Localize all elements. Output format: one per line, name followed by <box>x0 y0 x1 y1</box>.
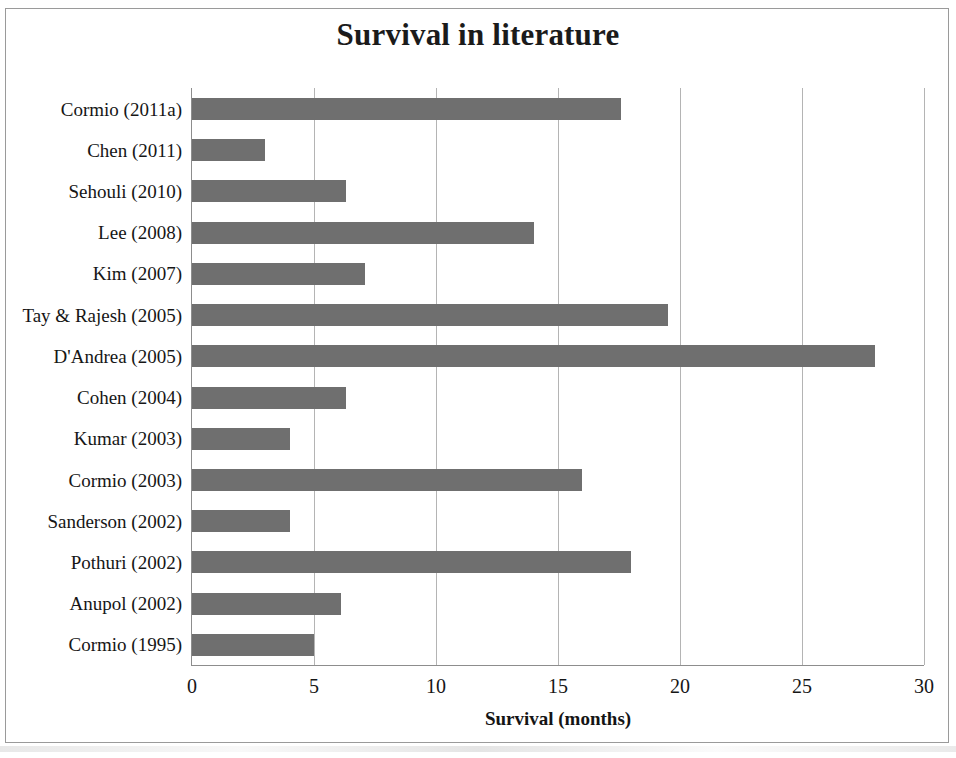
plot-area <box>192 88 924 665</box>
bar-row <box>192 88 924 129</box>
y-axis-label: Cormio (2011a) <box>2 100 182 119</box>
bar <box>192 98 621 120</box>
bar-row <box>192 335 924 376</box>
bar <box>192 551 631 573</box>
y-axis-label: Cormio (2003) <box>2 471 182 490</box>
bar <box>192 387 346 409</box>
y-axis-label: Tay & Rajesh (2005) <box>2 306 182 325</box>
bar <box>192 510 290 532</box>
bar-row <box>192 170 924 211</box>
y-axis-category-labels: Cormio (2011a)Chen (2011)Sehouli (2010)L… <box>0 88 182 665</box>
x-axis-title: Survival (months) <box>192 708 924 730</box>
bar <box>192 263 365 285</box>
y-axis-label: Sehouli (2010) <box>2 182 182 201</box>
x-axis-tick-label: 25 <box>772 675 832 698</box>
y-axis-label: Anupol (2002) <box>2 594 182 613</box>
bar-row <box>192 212 924 253</box>
bar <box>192 180 346 202</box>
y-axis-label: Sanderson (2002) <box>2 512 182 531</box>
y-axis-label: Lee (2008) <box>2 223 182 242</box>
bar <box>192 428 290 450</box>
y-axis-label: Pothuri (2002) <box>2 553 182 572</box>
bar <box>192 469 582 491</box>
bar-row <box>192 583 924 624</box>
x-axis-line <box>191 665 924 666</box>
bar <box>192 222 534 244</box>
bar-row <box>192 294 924 335</box>
x-axis-tick-labels: 051015202530 <box>192 675 924 705</box>
bar-row <box>192 377 924 418</box>
bar-row <box>192 459 924 500</box>
y-axis-label: Kumar (2003) <box>2 429 182 448</box>
x-axis-tick-label: 0 <box>162 675 222 698</box>
x-axis-tick-label: 20 <box>650 675 710 698</box>
bar-row <box>192 624 924 665</box>
y-axis-label: Cormio (1995) <box>2 635 182 654</box>
y-axis-label: Cohen (2004) <box>2 388 182 407</box>
bar-row <box>192 129 924 170</box>
y-axis-label: Chen (2011) <box>2 141 182 160</box>
chart-title: Survival in literature <box>0 18 956 52</box>
x-axis-tick-label: 30 <box>894 675 954 698</box>
x-axis-tick-label: 15 <box>528 675 588 698</box>
bar <box>192 634 314 656</box>
x-axis-tick-label: 10 <box>406 675 466 698</box>
scan-artifact-edge <box>0 746 956 752</box>
bar <box>192 139 265 161</box>
bar <box>192 345 875 367</box>
bar-row <box>192 253 924 294</box>
y-axis-label: Kim (2007) <box>2 264 182 283</box>
bar-row <box>192 500 924 541</box>
bar <box>192 304 668 326</box>
gridline-30 <box>924 88 925 665</box>
bar <box>192 593 341 615</box>
x-axis-tick-label: 5 <box>284 675 344 698</box>
bar-row <box>192 541 924 582</box>
bar-row <box>192 418 924 459</box>
y-axis-label: D'Andrea (2005) <box>2 347 182 366</box>
